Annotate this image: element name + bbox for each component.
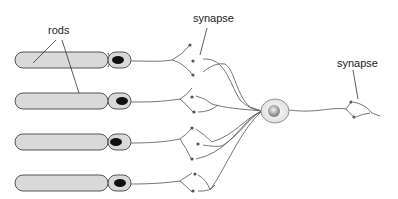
nucleus-icon: [110, 138, 122, 146]
rods-label: rods: [48, 24, 69, 36]
nucleus-icon: [114, 179, 126, 187]
rod-3: [15, 134, 131, 150]
synapse-label-1: synapse: [193, 12, 234, 24]
cell-nucleus-icon: [268, 105, 280, 117]
nucleus-icon: [116, 97, 128, 105]
rod-1: [15, 52, 131, 68]
rod-axons: [131, 45, 193, 192]
rod-4: [15, 175, 131, 191]
rod-2: [15, 93, 131, 109]
synapse-label-2: synapse: [337, 57, 378, 69]
converging-dendrites: [196, 59, 262, 191]
nucleus-icon: [112, 56, 124, 64]
output-axon: [289, 102, 380, 117]
ganglion-cell: [261, 99, 289, 123]
rod-synapse-diagram: rods synapse synapse: [0, 0, 398, 199]
